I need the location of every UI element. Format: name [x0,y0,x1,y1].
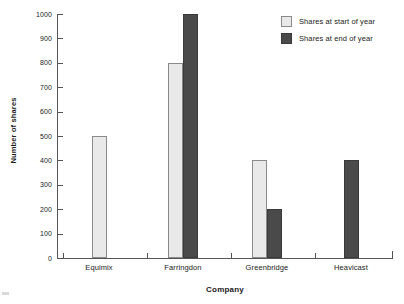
y-tick [58,209,63,210]
y-tick-label: 500 [22,133,52,140]
legend-item-start-of-year: Shares at start of year [281,16,399,27]
y-tick [58,14,63,15]
y-tick [58,87,63,88]
y-tick-label: 300 [22,181,52,188]
bar-farringdon-start [168,63,183,258]
bar-farringdon-end [183,14,198,258]
scan-artifact [2,292,9,295]
y-tick [58,136,63,137]
y-tick-label: 700 [22,84,52,91]
bar-equimix-start [92,136,107,258]
y-tick [58,160,63,161]
y-tick-label: 600 [22,108,52,115]
bar-greenbridge-end [267,209,282,258]
y-tick [58,234,63,235]
y-tick [58,185,63,186]
x-tick [63,253,64,259]
category-label-farringdon: Farringdon [141,264,225,272]
chart-legend: Shares at start of year Shares at end of… [281,16,399,50]
y-tick-label: 0 [22,255,52,262]
x-axis-end-tick [392,251,393,259]
y-tick [58,63,63,64]
x-axis-title: Company [57,285,393,294]
legend-item-end-of-year: Shares at end of year [281,33,399,44]
y-tick-label: 200 [22,206,52,213]
light-gray-swatch-icon [281,16,292,27]
category-label-greenbridge: Greenbridge [225,264,309,272]
legend-label: Shares at end of year [299,34,373,43]
x-axis-line [57,258,393,259]
y-tick-label: 400 [22,157,52,164]
y-tick [58,112,63,113]
y-tick-label: 900 [22,35,52,42]
category-label-heavicast: Heavicast [309,264,393,272]
y-tick [58,38,63,39]
bar-greenbridge-start [252,160,267,258]
bar-heavicast-end [344,160,359,258]
y-tick-label: 1000 [22,11,52,18]
x-tick [315,253,316,259]
category-label-equimix: Equimix [57,264,141,272]
y-tick-label: 100 [22,230,52,237]
dark-gray-swatch-icon [281,33,292,44]
x-tick [147,253,148,259]
bar-chart: 01002003004005006007008009001000 Equimix… [0,0,404,304]
legend-label: Shares at start of year [299,17,375,26]
y-axis-title: Number of shares [9,91,18,171]
y-tick-label: 800 [22,59,52,66]
x-tick [231,253,232,259]
